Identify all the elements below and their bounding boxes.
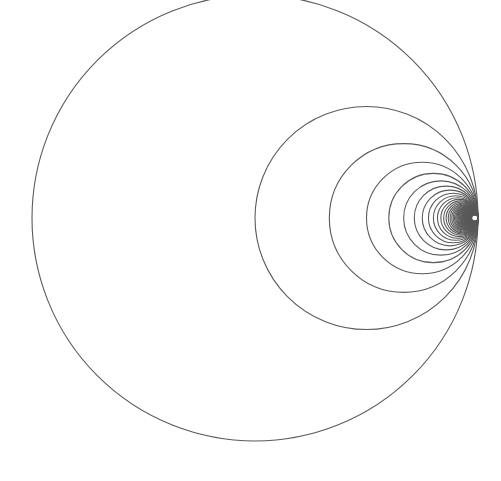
inner-circle — [472, 215, 478, 221]
diagram-canvas — [0, 0, 501, 481]
tangent-circles-figure — [0, 0, 501, 481]
circle-group — [32, 0, 478, 441]
